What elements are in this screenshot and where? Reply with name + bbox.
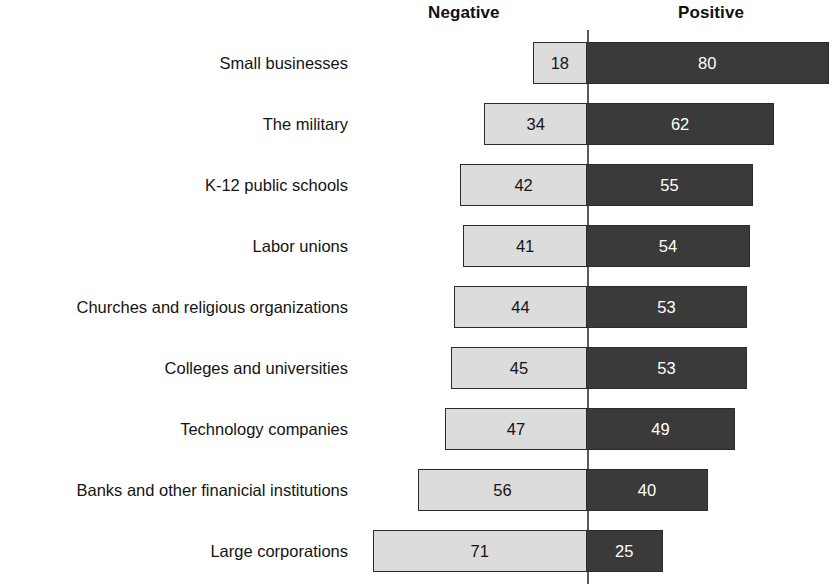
bar-group: 4255 — [0, 164, 840, 206]
bar-value-negative: 45 — [510, 359, 528, 378]
bar-positive[interactable]: 54 — [587, 225, 750, 267]
bar-group: 3462 — [0, 103, 840, 145]
bar-value-negative: 47 — [507, 420, 525, 439]
bar-value-positive: 53 — [657, 359, 675, 378]
bar-value-positive: 53 — [657, 298, 675, 317]
bar-positive[interactable]: 55 — [587, 164, 753, 206]
chart-row: Churches and religious organizations4453 — [0, 286, 840, 328]
bar-positive[interactable]: 62 — [587, 103, 774, 145]
chart-row: K-12 public schools4255 — [0, 164, 840, 206]
bar-value-negative: 56 — [493, 481, 511, 500]
bar-value-positive: 62 — [671, 115, 689, 134]
bar-group: 7125 — [0, 530, 840, 572]
bar-group: 4553 — [0, 347, 840, 389]
column-header-positive: Positive — [640, 0, 782, 26]
bar-positive[interactable]: 49 — [587, 408, 735, 450]
bar-value-positive: 55 — [660, 176, 678, 195]
bar-value-negative: 71 — [471, 542, 489, 561]
bar-negative[interactable]: 44 — [454, 286, 587, 328]
bar-group: 4453 — [0, 286, 840, 328]
bar-value-positive: 49 — [651, 420, 669, 439]
bar-positive[interactable]: 40 — [587, 469, 708, 511]
bar-value-negative: 41 — [516, 237, 534, 256]
bar-value-negative: 34 — [526, 115, 544, 134]
chart-row: Small businesses1880 — [0, 42, 840, 84]
chart-row: Labor unions4154 — [0, 225, 840, 267]
diverging-bar-chart: Negative Positive Small businesses1880Th… — [0, 0, 840, 584]
bar-group: 1880 — [0, 42, 840, 84]
bar-group: 4154 — [0, 225, 840, 267]
chart-row: Banks and other finanicial institutions5… — [0, 469, 840, 511]
bar-negative[interactable]: 56 — [418, 469, 587, 511]
chart-row: Large corporations7125 — [0, 530, 840, 572]
bar-negative[interactable]: 41 — [463, 225, 587, 267]
bar-value-negative: 44 — [511, 298, 529, 317]
bar-negative[interactable]: 18 — [533, 42, 587, 84]
bar-negative[interactable]: 45 — [451, 347, 587, 389]
bar-group: 4749 — [0, 408, 840, 450]
bar-value-negative: 18 — [551, 54, 569, 73]
chart-row: The military3462 — [0, 103, 840, 145]
bar-positive[interactable]: 80 — [587, 42, 829, 84]
bar-negative[interactable]: 42 — [460, 164, 587, 206]
bar-value-positive: 40 — [638, 481, 656, 500]
bar-negative[interactable]: 47 — [445, 408, 587, 450]
bar-value-negative: 42 — [514, 176, 532, 195]
chart-row: Technology companies4749 — [0, 408, 840, 450]
bar-value-positive: 54 — [659, 237, 677, 256]
bar-value-positive: 25 — [615, 542, 633, 561]
bar-negative[interactable]: 34 — [484, 103, 587, 145]
chart-row: Colleges and universities4553 — [0, 347, 840, 389]
bar-value-positive: 80 — [698, 54, 716, 73]
column-header-negative: Negative — [428, 0, 500, 26]
bar-group: 5640 — [0, 469, 840, 511]
bar-negative[interactable]: 71 — [373, 530, 587, 572]
bar-positive[interactable]: 53 — [587, 286, 747, 328]
bar-positive[interactable]: 53 — [587, 347, 747, 389]
bar-positive[interactable]: 25 — [587, 530, 663, 572]
